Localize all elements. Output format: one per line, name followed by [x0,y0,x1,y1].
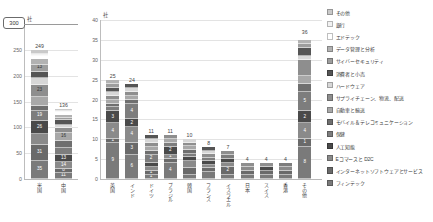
bar-segment [298,48,311,56]
bar-segment [145,135,158,139]
legend-swatch-icon [327,167,333,173]
bar-segment [202,165,215,169]
bar-segment [164,143,177,147]
bar-segment [125,84,138,88]
stacked-bar[interactable]: 412 [164,135,177,179]
legend-item[interactable]: 自動車と輸送 [327,104,433,116]
legend-item[interactable]: ハードウェア [327,79,433,91]
legend-item[interactable]: Eコマースと D2C [327,152,433,164]
bar-segment: 5 [298,92,311,112]
bar-segment [202,147,215,151]
stacked-bar[interactable] [202,147,215,179]
stacked-bar[interactable] [279,163,292,179]
bar-segment: 1 [164,155,177,159]
bar-segment [106,88,119,92]
bar-segment [298,56,311,60]
y-tick-label: 30 [83,57,98,63]
bar-segment [183,168,196,175]
bar-segment [106,96,119,100]
legend-swatch-icon [327,131,333,137]
bar-segment: 1 [145,171,158,175]
legend-item-label: インターネットソフトウェアとサービス [336,167,423,174]
bar-segment [221,159,234,163]
legend-item[interactable]: モバイル＆テレコミュニケーション [327,116,433,128]
bar-segment [106,104,119,108]
stacked-bar[interactable]: 81425 [298,36,311,179]
legend-item-label: データ管理と分析 [336,45,375,52]
legend-swatch-icon [327,58,333,64]
bar-segment [202,154,215,158]
callout-connector [24,24,78,25]
bar-segment [125,88,138,92]
bar-segment [145,147,158,151]
segment-value-label: 2 [150,156,153,161]
bar-segment [241,171,254,175]
stacked-bar[interactable] [260,163,273,179]
x-category-label: スイス [263,183,268,197]
segment-value-label: 2 [303,115,306,120]
gridline [100,40,322,41]
legend-item-label: 保健 [336,130,346,137]
legend-item[interactable]: フィンテック [327,177,433,189]
legend-item[interactable]: インターネットソフトウェアとサービス [327,164,433,176]
legend-item-label: 自動車と輸送 [336,106,365,113]
legend-item-label: 人工知能 [336,143,355,150]
bar-segment [202,172,215,179]
bar-segment: 1 [298,139,311,147]
bar-total-label: 10 [177,132,202,138]
bar-segment [202,161,215,165]
bar-segment [260,163,273,167]
y-unit-label: 社 [103,11,108,18]
stacked-bar[interactable]: 2 [221,151,234,179]
bar-segment [298,44,311,48]
x-category-label: 香港 [283,183,288,193]
stacked-bar[interactable] [183,139,196,179]
legend-item[interactable]: サイバーセキュリティ [327,55,433,67]
legend-item[interactable]: サプライチェーン、物流、配送 [327,91,433,103]
segment-value-label: 6 [131,164,134,169]
y-tick-label: 15 [83,116,98,122]
legend-swatch-icon [327,107,333,113]
legend-item[interactable]: 人工知能 [327,140,433,152]
legend-swatch-icon [327,46,333,52]
stacked-bar[interactable] [241,163,254,179]
segment-value-label: 4 [111,129,114,134]
stacked-bar[interactable]: 63424 [125,84,138,179]
segment-value-label: 4 [131,109,134,114]
legend-item[interactable]: データ管理と分析 [327,43,433,55]
legend-item[interactable]: その他 [327,6,433,18]
legend-item[interactable]: 消費者と小売 [327,67,433,79]
segment-value-label: 2 [169,148,172,153]
bar-segment [106,107,119,111]
bar-segment: 2 [125,119,138,127]
y-tick-label: 40 [83,17,98,23]
bar-segment [145,167,158,171]
legend-swatch-icon [327,94,333,100]
segment-value-label: 4 [303,129,306,134]
bar-segment [298,76,311,84]
bar-segment [125,92,138,96]
bar-segment [106,80,119,84]
segment-value-label: 4 [169,168,172,173]
legend-item-label: Eコマースと D2C [336,155,374,162]
bar-segment: 6 [125,155,138,179]
segment-value-label: 2 [227,168,230,173]
legend-swatch-icon [327,119,333,125]
bar-segment [125,100,138,104]
stacked-bar[interactable]: 9143 [106,80,119,179]
bar-total-label: 7 [215,144,240,150]
segment-value-label: 3 [131,146,134,151]
segment-value-label: 5 [303,99,306,104]
bar-segment [183,139,196,143]
bar-segment [221,151,234,155]
bar-total-label: 24 [119,77,144,83]
bar-segment [298,84,311,92]
bar-segment [241,167,254,171]
legend-item[interactable]: 銀行 [327,18,433,30]
legend-item[interactable]: 保健 [327,128,433,140]
legend-item[interactable]: エドテック [327,30,433,42]
legend-item-label: エドテック [336,33,360,40]
x-category-label: その他 [302,183,307,197]
bar-segment: 1 [106,139,119,143]
stacked-bar[interactable]: 112 [145,135,158,179]
